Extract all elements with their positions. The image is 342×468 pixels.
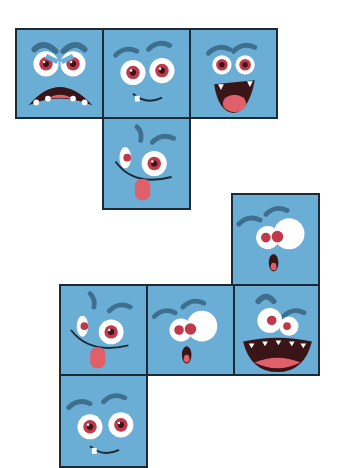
silly-wink-face-icon [104,119,189,208]
smirk-face-icon [104,30,189,117]
tile-angry-face [15,28,104,119]
tile-grinning-face [233,284,320,376]
surprised-face-icon [233,195,318,284]
tile-laughing-face [189,28,278,119]
laughing-face-icon [191,30,276,117]
tile-smirk-face-2 [59,374,148,468]
tile-surprised-face-mid [146,284,235,376]
tile-surprised-face-top [231,193,320,286]
tile-smirk-face [102,28,191,119]
surprised-face-icon [148,286,233,374]
tile-silly-wink-face [102,117,191,210]
silly-wink-face-icon [61,286,146,374]
angry-face-icon [17,30,102,117]
smirk-face-icon [61,376,146,466]
grinning-face-icon [235,286,318,374]
tile-silly-wink-face-2 [59,284,148,376]
